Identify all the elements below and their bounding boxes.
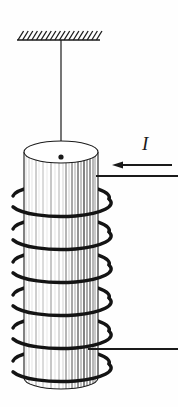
cylinder-top-ellipse <box>24 141 98 163</box>
wire-attachment-dot <box>58 154 63 159</box>
solenoid-figure: I <box>0 0 178 407</box>
solenoid-diagram-svg <box>0 0 178 407</box>
cylinder-core <box>24 141 98 389</box>
current-label: I <box>142 134 148 153</box>
